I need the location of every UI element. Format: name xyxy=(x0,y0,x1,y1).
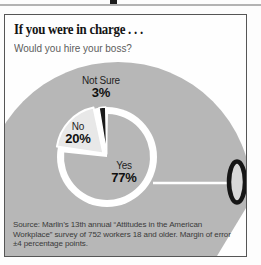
not-sure-value: 3% xyxy=(82,86,120,99)
label-yes: Yes 77% xyxy=(111,160,136,184)
no-value: 20% xyxy=(65,132,90,145)
source-note: Source: Marlin’s 13th annual “Attitudes … xyxy=(13,220,235,249)
chart-panel: If you were in charge . . . Would you hi… xyxy=(4,14,247,257)
yes-value: 77% xyxy=(111,171,136,184)
mug-handle-icon xyxy=(229,162,245,203)
page-crop-mark xyxy=(110,0,117,4)
chart-subtitle: Would you hire your boss? xyxy=(14,42,132,54)
label-no: No 20% xyxy=(65,121,90,145)
chart-title: If you were in charge . . . xyxy=(14,21,143,38)
newspaper-infographic: { "header": { "title": "If you were in c… xyxy=(0,0,261,265)
page-top-rule xyxy=(0,4,261,6)
label-not-sure: Not Sure 3% xyxy=(82,75,120,99)
